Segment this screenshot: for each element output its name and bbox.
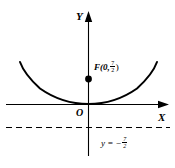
figure-canvas [0, 0, 175, 168]
x-axis-arrowhead [158, 101, 169, 108]
directrix-fraction-denominator: 2 [122, 143, 127, 149]
directrix-label: y = −72 [101, 136, 128, 150]
x-axis-label: X [158, 112, 165, 123]
directrix-fraction: 72 [122, 136, 127, 150]
parabola-figure: Y X O F(0,72) y = −72 [0, 0, 175, 168]
focus-label: F(0,72) [94, 60, 119, 74]
directrix-label-prefix: y = − [101, 138, 122, 148]
focus-fraction: 72 [110, 60, 115, 74]
focus-fraction-denominator: 2 [110, 67, 115, 73]
focus-label-suffix: ) [116, 62, 119, 72]
y-axis-label: Y [76, 11, 83, 22]
directrix-fraction-numerator: 7 [122, 136, 127, 143]
focus-fraction-numerator: 7 [110, 60, 115, 67]
origin-label: O [76, 108, 83, 118]
focus-label-prefix: F(0, [94, 62, 110, 72]
focus-point-dot [85, 76, 92, 83]
y-axis-arrowhead [85, 11, 92, 22]
